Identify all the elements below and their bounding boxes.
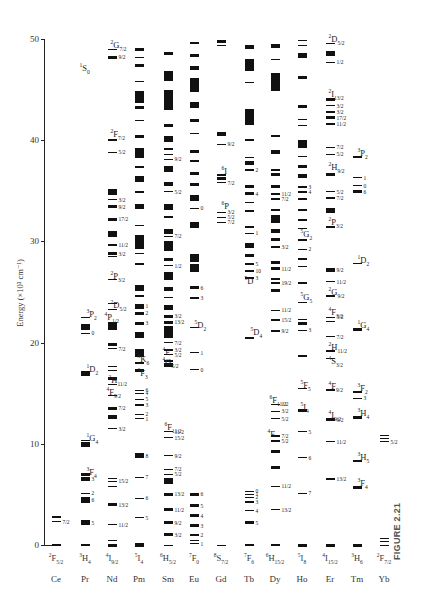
level-j-label: 2 [92, 490, 95, 496]
y-tick [41, 343, 45, 344]
level-j-label: 17/2 [337, 115, 347, 121]
energy-level [164, 229, 173, 234]
energy-level [190, 524, 199, 527]
term-symbol: 6P [222, 199, 229, 211]
energy-level [326, 111, 335, 113]
energy-level [135, 404, 144, 406]
energy-level [108, 481, 117, 482]
energy-level [164, 136, 173, 142]
level-j-label: 0 [201, 205, 204, 211]
term-symbol: 6F11/2 [165, 420, 182, 436]
energy-level [217, 177, 226, 180]
term-symbol: 1G4 [87, 431, 99, 447]
energy-level [190, 183, 199, 186]
energy-level [298, 125, 307, 126]
energy-level [164, 154, 173, 155]
energy-level [326, 268, 335, 272]
level-j-label: 5/2 [337, 151, 344, 157]
term-symbol: 3H5 [358, 450, 370, 466]
energy-level [271, 229, 280, 233]
energy-level [353, 177, 362, 178]
energy-level [271, 261, 280, 264]
energy-level [353, 398, 362, 399]
energy-level [135, 106, 144, 109]
energy-level [217, 144, 226, 145]
level-j-label: 1/2 [175, 263, 182, 269]
energy-level [217, 182, 226, 183]
energy-level [298, 53, 307, 58]
energy-level [271, 209, 280, 211]
element-label: Dy [270, 574, 281, 584]
energy-level [81, 493, 90, 494]
term-symbol: 4F [268, 427, 275, 439]
energy-level [271, 267, 280, 270]
energy-level [164, 265, 173, 266]
term-symbol: 1D2 [358, 253, 370, 269]
level-j-label: 3 [146, 402, 149, 408]
energy-level [135, 312, 144, 315]
term-symbol: 4F9/2 [107, 385, 122, 401]
energy-level [108, 486, 117, 487]
level-j-label: 7/2 [119, 346, 126, 352]
energy-level [245, 510, 254, 511]
energy-level [108, 252, 117, 255]
level-j-label: 7 [309, 490, 312, 496]
element-label: Ce [51, 574, 61, 584]
energy-level [108, 56, 117, 59]
level-j-label: 11/2 [119, 522, 129, 528]
level-j-label: 11/2 [282, 266, 292, 272]
energy-level [164, 469, 173, 470]
level-j-label: 7/2 [119, 405, 126, 411]
energy-level [164, 533, 173, 536]
level-j-label: 11/2 [282, 307, 292, 313]
energy-level [217, 222, 226, 223]
energy-level [271, 185, 280, 188]
energy-level [190, 133, 199, 134]
energy-level [135, 225, 144, 226]
level-j-label: 3/2 [282, 408, 289, 414]
ground-state-label: 5I4 [135, 552, 143, 565]
y-tick-label: 40 [30, 136, 39, 145]
ground-state-label: 8S7/2 [214, 552, 229, 565]
level-j-label: 2 [201, 532, 204, 538]
energy-level [135, 418, 144, 419]
energy-level [298, 330, 307, 331]
energy-level [108, 218, 117, 221]
energy-level [190, 514, 199, 517]
energy-level [245, 157, 254, 158]
energy-level [271, 319, 280, 321]
energy-level [326, 208, 335, 213]
term-symbol: 3H4 [358, 406, 370, 422]
element-label: Tb [244, 574, 254, 584]
level-j-label: 6 [201, 285, 204, 291]
y-tick [41, 241, 45, 242]
element-label: Er [326, 574, 335, 584]
energy-level [245, 45, 254, 49]
energy-level [298, 258, 307, 260]
energy-level [135, 135, 144, 138]
y-tick [41, 140, 45, 141]
level-j-label: 6 [146, 495, 149, 501]
energy-level [135, 393, 144, 394]
energy-level [298, 45, 307, 46]
energy-level [326, 321, 335, 322]
energy-level [135, 81, 144, 82]
level-j-label: 9/2 [119, 54, 126, 60]
term-symbol: 3P2 [358, 146, 368, 162]
level-j-label: 4 [201, 513, 204, 519]
level-j-label: 3/2 [119, 197, 126, 203]
energy-level [271, 310, 280, 311]
term-symbol: 2P3/2 [329, 215, 344, 231]
energy-level [380, 435, 389, 436]
energy-level [135, 543, 144, 547]
energy-level [108, 415, 117, 419]
energy-level [81, 544, 90, 546]
term-symbol: 3F2 [358, 381, 368, 397]
energy-level [245, 169, 254, 171]
energy-level [81, 333, 90, 334]
term-symbol: 3F3 [138, 366, 148, 382]
term-symbol: 2G9/2 [329, 285, 345, 301]
energy-level [52, 521, 61, 522]
energy-level [81, 324, 90, 330]
energy-level [190, 78, 199, 92]
